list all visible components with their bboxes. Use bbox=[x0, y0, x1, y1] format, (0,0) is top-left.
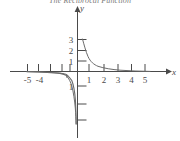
x-tick-label-3: 3 bbox=[116, 75, 121, 85]
x-tick-label-4: 4 bbox=[129, 75, 134, 85]
curve-negative-branch bbox=[27, 72, 76, 124]
x-tick-label--4: -4 bbox=[36, 75, 44, 85]
x-axis-ticks-negative bbox=[28, 64, 71, 72]
figure-container: The Reciprocal Function x y bbox=[0, 0, 180, 141]
y-axis-label: y bbox=[79, 3, 84, 13]
x-tick-label-2: 2 bbox=[102, 75, 107, 85]
y-tick-label-2: 2 bbox=[69, 46, 74, 56]
y-tick-label-3: 3 bbox=[69, 35, 74, 45]
x-tick-label--5: -5 bbox=[24, 75, 32, 85]
x-tick-label-1: 1 bbox=[87, 75, 92, 85]
y-axis-ticks bbox=[78, 40, 87, 121]
x-tick-label-5: 5 bbox=[143, 75, 148, 85]
curve-positive-branch bbox=[83, 39, 151, 71]
reciprocal-function-graph: x y -5 -4 1 2 3 bbox=[0, 0, 180, 141]
y-tick-label-1: 1 bbox=[69, 57, 74, 67]
x-axis-label: x bbox=[171, 67, 176, 77]
x-axis-tick-labels: -5 -4 1 2 3 4 5 bbox=[24, 75, 148, 85]
